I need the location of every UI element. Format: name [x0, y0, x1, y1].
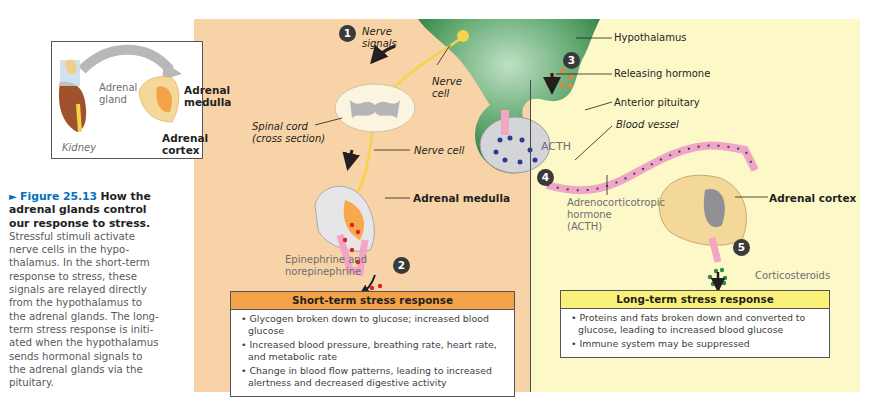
adrenal-cortex-label: Adrenal cortex [769, 192, 856, 204]
figure-title-line-1: How the [100, 190, 150, 203]
adrenal-medulla-label: Adrenal medulla [413, 192, 510, 204]
inset-adrenal-cortex-label-2: cortex [162, 144, 200, 156]
inset-kidney-label: Kidney [62, 142, 96, 154]
short-term-response-box: Short-term stress response Glycogen brok… [230, 291, 515, 397]
list-item: Change in blood flow patterns, leading t… [239, 365, 506, 388]
anterior-pituitary-shape [480, 117, 550, 173]
caption-line: term stress response is initi- [9, 323, 185, 336]
acth-full-label-2: hormone [567, 209, 612, 221]
figure-caption: ► Figure 25.13 How the adrenal glands co… [9, 190, 185, 389]
list-item: Glycogen broken down to glucose; increas… [239, 313, 506, 336]
step-2-marker: 2 [393, 257, 410, 274]
nerve-cell-top-label: Nerve [432, 76, 462, 88]
nerve-cell-label: Nerve cell [414, 145, 464, 157]
nerve-cell-top-label-2: cell [432, 88, 449, 100]
acth-full-label-3: (ACTH) [567, 221, 602, 233]
adrenal-cortex-gland [659, 175, 746, 245]
figure-title-line-2: adrenal glands control [9, 203, 185, 216]
step-5-marker: 5 [733, 239, 750, 256]
figure-number: Figure 25.13 [20, 190, 97, 203]
zoom-arrow-icon [82, 50, 170, 70]
kidney-shape [59, 82, 86, 132]
caption-line: response to stress, these [9, 270, 185, 283]
list-item: Increased blood pressure, breathing rate… [239, 339, 506, 362]
list-item: Immune system may be suppressed [569, 338, 821, 350]
inset-adrenal-gland-label: Adrenal [99, 82, 137, 94]
anterior-pituitary-label: Anterior pituitary [614, 97, 700, 109]
inset-adrenal-gland-label-2: gland [99, 94, 127, 106]
list-item: Proteins and fats broken down and conver… [569, 312, 821, 335]
blood-vessel-label: Blood vessel [616, 119, 679, 131]
nerve-cell-body [457, 30, 469, 42]
acth-full-label: Adrenocorticotropic [567, 197, 665, 209]
nerve-signals-label: Nerve [362, 26, 392, 38]
step-1-marker: 1 [339, 25, 356, 42]
caption-line: pituitary. [9, 376, 185, 389]
caption-line: the adrenal glands. The long- [9, 310, 185, 323]
caption-line: ated when the hypothalamus [9, 336, 185, 349]
releasing-hormone-label: Releasing hormone [614, 68, 710, 80]
caption-line: the adrenal glands via the [9, 363, 185, 376]
short-term-list: Glycogen broken down to glucose; increas… [231, 310, 514, 396]
step-4-marker: 4 [537, 169, 554, 186]
figure-title-line-3: our response to stress. [9, 217, 185, 230]
caption-line: from the hypothalamus to [9, 296, 185, 309]
epinephrine-label: Epinephrine and [285, 254, 367, 266]
panel-divider [530, 80, 531, 392]
caption-line: thalamus. In the short-term [9, 256, 185, 269]
inset-adrenal-medulla-label: Adrenal [184, 84, 230, 96]
acth-label: ACTH [541, 141, 571, 153]
short-term-title: Short-term stress response [231, 292, 514, 310]
corticosteroids-label: Corticosteroids [755, 270, 830, 282]
long-term-list: Proteins and fats broken down and conver… [561, 309, 829, 357]
caption-line: nerve cells in the hypo- [9, 243, 185, 256]
long-term-response-box: Long-term stress response Proteins and f… [560, 290, 830, 358]
caption-line: Stressful stimuli activate [9, 230, 185, 243]
caption-line: sends hormonal signals to [9, 350, 185, 363]
spinal-cord-label-2: (cross section) [252, 133, 325, 145]
hypothalamus-label: Hypothalamus [614, 32, 687, 44]
epinephrine-label-2: norepinephrine [285, 266, 361, 278]
caption-line: signals are relayed directly [9, 283, 185, 296]
long-term-title: Long-term stress response [561, 291, 829, 309]
step-3-marker: 3 [563, 52, 580, 69]
adrenal-gland-inset: Adrenal gland Kidney Adrenal medulla Adr… [51, 41, 203, 159]
inset-adrenal-cortex-label: Adrenal [162, 132, 208, 144]
inset-adrenal-medulla-label-2: medulla [184, 96, 231, 108]
nerve-signals-label-2: signals [362, 38, 397, 50]
spinal-cord-label: Spinal cord [252, 121, 308, 133]
